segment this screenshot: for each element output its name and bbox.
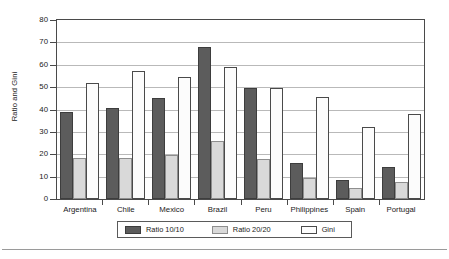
- x-axis-tick-label: Spain: [332, 205, 378, 215]
- legend-item: Ratio 10/10: [125, 222, 184, 237]
- bar: [60, 112, 73, 199]
- chart-legend: Ratio 10/10Ratio 20/20Gini: [117, 221, 352, 238]
- legend-swatch: [125, 226, 141, 234]
- legend-item: Gini: [301, 222, 335, 237]
- y-axis-tick-label-wrap: 40: [0, 106, 48, 114]
- x-axis-tick-label: Peru: [241, 205, 287, 215]
- bar: [73, 158, 86, 199]
- bar-group-bars: [57, 20, 103, 199]
- bar-group: [332, 20, 378, 199]
- bar: [349, 188, 362, 199]
- y-axis-tick-label-wrap: 30: [0, 128, 48, 136]
- x-axis-tick-label: Argentina: [57, 205, 103, 215]
- legend-swatch: [212, 226, 228, 234]
- bar-groups: [57, 20, 424, 199]
- y-axis-tick-label-wrap: 80: [0, 16, 48, 24]
- bar-group: [149, 20, 195, 199]
- bar: [362, 127, 375, 199]
- bar-group: [57, 20, 103, 199]
- y-axis-tick-label: 70: [2, 38, 48, 46]
- y-axis-tick-label-wrap: 20: [0, 150, 48, 158]
- bar: [303, 178, 316, 199]
- bar-group: [103, 20, 149, 199]
- x-axis-tick-label: Portugal: [378, 205, 424, 215]
- bar: [257, 159, 270, 199]
- y-axis-tick-label: 0: [2, 195, 48, 203]
- y-axis-title: Ratio and Gini: [10, 37, 19, 157]
- legend-label: Gini: [322, 225, 335, 234]
- y-axis-tick-label-wrap: 0: [0, 195, 48, 203]
- bar: [211, 141, 224, 199]
- bar: [152, 98, 165, 199]
- x-axis-tick-label: Chile: [103, 205, 149, 215]
- y-axis-tick-label: 60: [2, 61, 48, 69]
- bottom-divider: [2, 249, 447, 250]
- bar-group-bars: [195, 20, 241, 199]
- bar: [132, 71, 145, 199]
- legend-item: Ratio 20/20: [212, 222, 271, 237]
- legend-swatch: [301, 226, 317, 234]
- bar-group: [286, 20, 332, 199]
- x-axis-tick-label: Philippines: [286, 205, 332, 215]
- y-axis-tick-label-wrap: 60: [0, 61, 48, 69]
- x-axis-tick-label: Brazil: [195, 205, 241, 215]
- bar: [270, 88, 283, 199]
- bar: [336, 180, 349, 199]
- bar-group-bars: [149, 20, 195, 199]
- y-axis-tick-label-wrap: 50: [0, 83, 48, 91]
- y-axis-tick-label-wrap: 10: [0, 173, 48, 181]
- bar-group-bars: [332, 20, 378, 199]
- chart-figure: Ratio and Gini 01020304050607080 Argenti…: [0, 0, 449, 259]
- bar-group: [241, 20, 287, 199]
- bar: [119, 158, 132, 199]
- bar-group: [195, 20, 241, 199]
- y-axis-tick-label: 20: [2, 150, 48, 158]
- y-axis-tick-label: 80: [2, 16, 48, 24]
- x-axis-tick-label: Mexico: [149, 205, 195, 215]
- bar: [106, 108, 119, 199]
- bar-group: [378, 20, 424, 199]
- x-axis-labels: ArgentinaChileMexicoBrazilPeruPhilippine…: [57, 205, 424, 215]
- bar-group-bars: [286, 20, 332, 199]
- bar: [178, 77, 191, 199]
- legend-label: Ratio 10/10: [146, 225, 184, 234]
- bar: [316, 97, 329, 199]
- bar-group-bars: [241, 20, 287, 199]
- bar: [198, 47, 211, 199]
- bar: [224, 67, 237, 199]
- bar-group-bars: [103, 20, 149, 199]
- y-axis-tick-label: 40: [2, 106, 48, 114]
- bar: [395, 182, 408, 199]
- y-axis-tick-label: 30: [2, 128, 48, 136]
- y-axis-tick-label-wrap: 70: [0, 38, 48, 46]
- bar: [244, 88, 257, 199]
- bar: [382, 167, 395, 199]
- bar: [408, 114, 421, 199]
- bar-group-bars: [378, 20, 424, 199]
- bar: [165, 155, 178, 199]
- legend-label: Ratio 20/20: [233, 225, 271, 234]
- bar: [86, 83, 99, 199]
- y-axis-tick-label: 10: [2, 173, 48, 181]
- y-axis-tick-label: 50: [2, 83, 48, 91]
- bar: [290, 163, 303, 199]
